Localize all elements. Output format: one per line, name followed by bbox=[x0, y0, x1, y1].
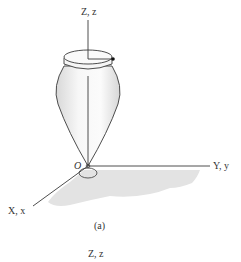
spinning-top-diagram: Z, z O Y, y X, x (a) Z, z bbox=[0, 0, 241, 262]
figure-caption: (a) bbox=[94, 220, 105, 232]
x-axis-label: X, x bbox=[8, 205, 25, 216]
y-axis-label: Y, y bbox=[213, 160, 229, 171]
floor-shading bbox=[48, 170, 200, 206]
next-figure-z-label: Z, z bbox=[88, 248, 104, 259]
rim-point-dot bbox=[111, 57, 115, 61]
origin-label: O bbox=[74, 160, 81, 171]
z-axis-label: Z, z bbox=[81, 6, 97, 17]
